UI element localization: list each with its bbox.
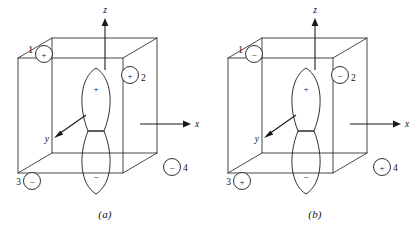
corner-orbital-2[interactable]: − 2	[332, 67, 357, 84]
axis-y-line	[269, 115, 296, 134]
p-orbital-top-sign: +	[93, 84, 98, 94]
p-orbital-bottom-lobe	[292, 131, 320, 194]
panel-a: z x y + −	[0, 0, 210, 238]
cube-edge-bl	[228, 153, 262, 173]
corner-orbital-1[interactable]: − 1	[238, 45, 262, 63]
corner-orbital-1[interactable]: + 1	[28, 45, 52, 63]
axis-x: x	[350, 119, 410, 129]
axis-z-arrowhead	[102, 18, 109, 26]
axis-y-line	[59, 115, 86, 134]
axis-y: y	[44, 115, 86, 144]
corner-orbital-4-number: 4	[393, 163, 398, 173]
p-orbital-top-lobe	[292, 68, 320, 131]
cube-edge-bl	[18, 153, 52, 173]
p-orbital: + −	[292, 68, 320, 194]
corner-orbital-2-number: 2	[351, 73, 356, 83]
cube-edge-br	[123, 153, 157, 173]
p-orbital-bottom-sign: −	[303, 172, 308, 182]
corner-orbital-4[interactable]: + 4	[374, 159, 399, 176]
panel-b-diagram: z x y + − − 1	[210, 0, 420, 238]
corner-orbital-4-number: 4	[183, 163, 188, 173]
p-orbital: + −	[82, 68, 110, 194]
corner-orbital-2-number: 2	[141, 73, 146, 83]
cube-edge-tr	[333, 38, 367, 58]
corner-orbital-1-number: 1	[238, 45, 243, 55]
corner-orbital-3-number: 3	[16, 177, 21, 187]
axis-x-arrowhead	[393, 121, 401, 128]
corner-orbital-3-sign: +	[239, 177, 244, 187]
axis-y: y	[254, 115, 296, 144]
cube-edge-tr	[123, 38, 157, 58]
axis-z: z	[102, 5, 109, 70]
p-orbital-top-lobe	[82, 68, 110, 131]
cube-back-face	[18, 58, 123, 173]
p-orbital-bottom-sign: −	[93, 172, 98, 182]
axis-x-label: x	[194, 119, 200, 129]
cube-edge-br	[333, 153, 367, 173]
corner-orbital-1-number: 1	[28, 45, 33, 55]
panel-a-diagram: z x y + −	[0, 0, 210, 238]
p-orbital-bottom-lobe	[82, 131, 110, 194]
axis-x-arrowhead	[183, 121, 191, 128]
panel-b: z x y + − − 1	[210, 0, 420, 238]
axis-x: x	[140, 119, 200, 129]
figure-root: z x y + −	[0, 0, 420, 238]
corner-orbital-3[interactable]: − 3	[16, 173, 40, 190]
axis-z-arrowhead	[312, 18, 319, 26]
corner-orbital-2-sign: −	[337, 71, 342, 81]
corner-orbital-3[interactable]: + 3	[226, 173, 250, 190]
panel-a-caption: (a)	[0, 209, 210, 220]
corner-orbital-2-sign: +	[127, 71, 132, 81]
axis-z-label: z	[312, 5, 317, 15]
p-orbital-top-sign: +	[303, 84, 308, 94]
corner-orbital-3-number: 3	[226, 177, 231, 187]
axis-x-label: x	[404, 119, 410, 129]
panel-b-caption: (b)	[210, 209, 420, 220]
corner-orbital-1-sign: −	[251, 50, 256, 60]
axis-z-label: z	[102, 5, 107, 15]
cube-back-face	[228, 58, 333, 173]
corner-orbital-3-sign: −	[29, 177, 34, 187]
axis-y-label: y	[44, 134, 50, 144]
axis-z: z	[312, 5, 319, 70]
corner-orbital-1-sign: +	[41, 50, 46, 60]
axis-y-label: y	[254, 134, 260, 144]
corner-orbital-4[interactable]: − 4	[164, 159, 189, 176]
corner-orbital-4-sign: −	[169, 163, 174, 173]
corner-orbital-2[interactable]: + 2	[122, 67, 147, 84]
corner-orbital-4-sign: +	[379, 163, 384, 173]
